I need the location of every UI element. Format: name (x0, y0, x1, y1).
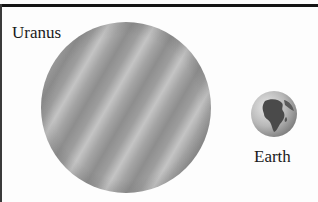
top-border-rule (0, 4, 318, 7)
uranus-label: Uranus (12, 24, 61, 41)
figure-frame: Uranus Earth (0, 0, 318, 202)
earth-globe-icon (251, 91, 297, 137)
left-border-rule (0, 4, 2, 202)
earth-label: Earth (254, 148, 291, 165)
uranus-planet-icon (41, 22, 211, 193)
